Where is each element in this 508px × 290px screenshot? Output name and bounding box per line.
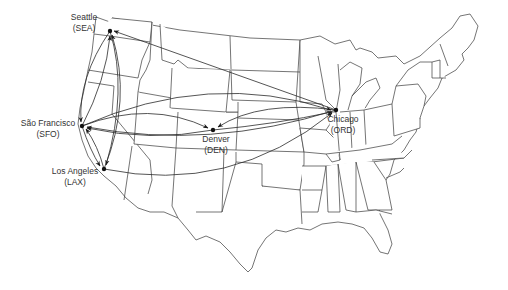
airport-code: (DEN) [200, 145, 232, 156]
airport-code: (SFO) [20, 129, 76, 140]
state-wyoming [170, 68, 230, 112]
airport-name: Seattle [64, 12, 104, 23]
airport-label-lax: Los Angeles (LAX) [50, 166, 100, 188]
airport-code: (LAX) [50, 177, 100, 188]
airport-name: Los Angeles [50, 166, 100, 177]
airport-label-ord: Chicago (ORD) [326, 114, 360, 136]
airport-name: Chicago [326, 114, 360, 125]
state-southeast [302, 162, 392, 212]
airport-dot-sfo [80, 124, 84, 128]
airport-dot-sea [108, 29, 112, 33]
airport-name: São Francisco [20, 118, 76, 129]
airport-dot-ord [334, 108, 338, 112]
airport-label-sfo: São Francisco (SFO) [20, 118, 76, 140]
airport-code: (ORD) [326, 125, 360, 136]
airport-label-den: Denver (DEN) [200, 134, 232, 156]
airport-label-sea: Seattle (SEA) [64, 12, 104, 34]
us-route-map [0, 0, 508, 290]
airport-dot-den [211, 128, 215, 132]
airport-dot-lax [102, 167, 106, 171]
state-outlines [78, 14, 478, 272]
airport-code: (SEA) [64, 23, 104, 34]
airport-name: Denver [200, 134, 232, 145]
